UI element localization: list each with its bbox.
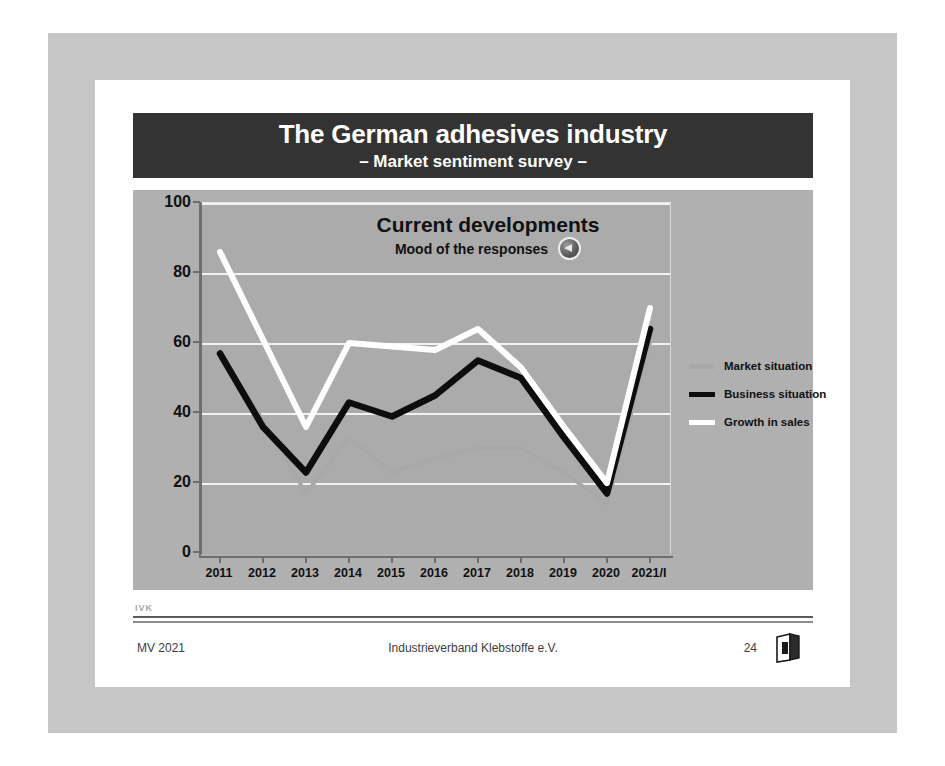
y-axis-tick-label: 20 bbox=[147, 474, 191, 490]
y-axis-tick-mark bbox=[193, 481, 200, 483]
footer-rule-top bbox=[133, 616, 813, 618]
y-axis-tick-mark bbox=[193, 341, 200, 343]
legend-item: Market situation bbox=[689, 352, 819, 380]
y-axis-tick-label: 40 bbox=[147, 404, 191, 420]
chart-heading-main: Current developments bbox=[323, 212, 653, 238]
ivk-book-logo bbox=[773, 631, 803, 663]
slide-footer: IVK MV 2021 Industrieverband Klebstoffe … bbox=[133, 603, 813, 673]
slide-title-main: The German adhesives industry bbox=[133, 118, 813, 150]
chart-series-market-situation bbox=[220, 343, 650, 504]
footer-page-number: 24 bbox=[744, 641, 757, 655]
x-axis-tick-label: 2021/I bbox=[622, 566, 676, 580]
x-axis-tick-mark bbox=[262, 556, 264, 563]
y-axis-line bbox=[199, 202, 201, 557]
x-axis-tick-mark bbox=[219, 556, 221, 563]
x-axis-tick-mark bbox=[391, 556, 393, 563]
chart-series-business-situation bbox=[220, 329, 650, 494]
legend-label: Market situation bbox=[724, 360, 812, 372]
legend-item: Business situation bbox=[689, 380, 819, 408]
x-axis-tick-mark bbox=[520, 556, 522, 563]
footer-rule-bottom bbox=[133, 621, 813, 623]
footer-organization: Industrieverband Klebstoffe e.V. bbox=[133, 641, 813, 655]
chart-heading: Current developments Mood of the respons… bbox=[323, 212, 653, 261]
legend-swatch bbox=[689, 364, 715, 369]
y-axis-tick-mark bbox=[193, 271, 200, 273]
screenshot-page: The German adhesives industry – Market s… bbox=[0, 0, 945, 766]
ivk-watermark: IVK bbox=[135, 603, 153, 613]
mood-trend-icon bbox=[558, 237, 581, 260]
legend-label: Growth in sales bbox=[724, 416, 810, 428]
x-axis-tick-mark bbox=[434, 556, 436, 563]
slide-title-sub: – Market sentiment survey – bbox=[133, 150, 813, 174]
legend-item: Growth in sales bbox=[689, 408, 819, 436]
legend-label: Business situation bbox=[724, 388, 826, 400]
x-axis-tick-mark bbox=[649, 556, 651, 563]
x-axis-tick-mark bbox=[348, 556, 350, 563]
chart-heading-sub: Mood of the responses bbox=[395, 239, 548, 259]
y-axis-tick-label: 80 bbox=[147, 264, 191, 280]
x-axis-tick-mark bbox=[477, 556, 479, 563]
x-axis-tick-mark bbox=[305, 556, 307, 563]
legend-swatch bbox=[689, 392, 715, 397]
x-axis-line bbox=[199, 556, 673, 558]
slide-title-bar: The German adhesives industry – Market s… bbox=[133, 113, 813, 178]
y-axis-tick-mark bbox=[193, 411, 200, 413]
x-axis-tick-mark bbox=[606, 556, 608, 563]
y-axis-tick-label: 100 bbox=[147, 194, 191, 210]
slide: The German adhesives industry – Market s… bbox=[95, 80, 850, 687]
chart-panel: 020406080100 201120122013201420152016201… bbox=[133, 190, 813, 590]
y-axis-tick-label: 60 bbox=[147, 334, 191, 350]
legend-swatch bbox=[689, 420, 715, 425]
y-axis-tick-mark bbox=[193, 551, 200, 553]
x-axis-tick-mark bbox=[563, 556, 565, 563]
y-axis-tick-mark bbox=[193, 201, 200, 203]
y-axis-tick-label: 0 bbox=[147, 544, 191, 560]
chart-legend: Market situationBusiness situationGrowth… bbox=[689, 352, 819, 436]
